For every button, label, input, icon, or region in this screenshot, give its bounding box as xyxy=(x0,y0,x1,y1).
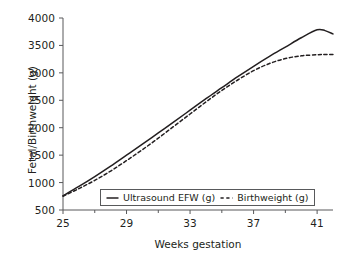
y-axis-title: Fetal/Birthweight (g) xyxy=(26,40,38,200)
axis-spines xyxy=(63,18,333,210)
x-axis-ticks xyxy=(63,210,317,214)
legend-solid-line-icon xyxy=(106,194,119,202)
series-line-birthweight xyxy=(63,54,333,196)
y-axis-ticks xyxy=(59,18,63,210)
y-axis-tick-label: 4000 xyxy=(0,12,55,24)
x-axis-tick-label: 37 xyxy=(247,217,261,229)
legend-item-birthweight: Birthweight (g) xyxy=(220,192,308,203)
x-axis-tick-label: 29 xyxy=(120,217,134,229)
series-line-ultrasound-efw xyxy=(63,29,333,195)
chart-legend: Ultrasound EFW (g) Birthweight (g) xyxy=(100,189,315,206)
x-axis-tick-label: 33 xyxy=(183,217,197,229)
chart-figure: 5001000150020002500300035004000 25293337… xyxy=(0,0,346,261)
legend-dashed-line-icon xyxy=(220,194,233,202)
legend-item-ultrasound-efw: Ultrasound EFW (g) xyxy=(106,192,215,203)
x-axis-tick-label: 41 xyxy=(310,217,324,229)
y-axis-tick-label: 500 xyxy=(0,204,55,216)
x-axis-tick-label: 25 xyxy=(56,217,70,229)
legend-label-ultrasound-efw: Ultrasound EFW (g) xyxy=(123,192,215,203)
legend-label-birthweight: Birthweight (g) xyxy=(237,192,308,203)
x-axis-title: Weeks gestation xyxy=(63,238,333,250)
